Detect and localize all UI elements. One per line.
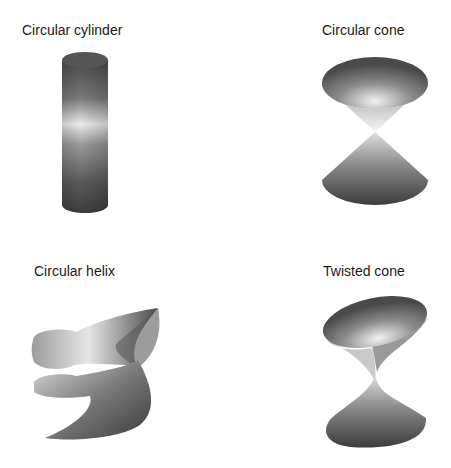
circular-cylinder-surface bbox=[62, 52, 108, 213]
twisted-cone-surface bbox=[318, 288, 432, 448]
circular-helix-surface bbox=[32, 308, 160, 439]
surfaces-figure bbox=[0, 0, 451, 468]
circular-cone-surface bbox=[322, 57, 428, 205]
